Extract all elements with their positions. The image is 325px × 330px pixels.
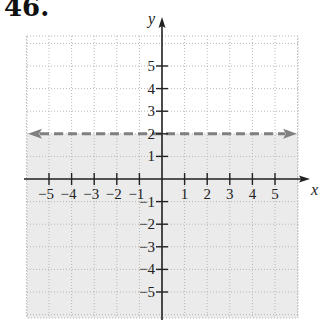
x-tick-label: −5 [38,186,54,202]
x-tick-label: 2 [203,186,211,202]
x-tick-label: −4 [61,186,77,202]
x-tick-label: 4 [249,186,257,202]
y-axis-label: y [146,10,156,28]
x-tick-label: 5 [271,186,279,202]
x-tick-label: 3 [226,186,234,202]
x-tick-label: 1 [181,186,189,202]
y-tick-label: −2 [139,216,155,232]
y-tick-label: 5 [148,58,156,74]
y-tick-label: 3 [148,103,156,119]
y-tick-label: 4 [148,81,156,97]
y-tick-label: 1 [148,148,156,164]
y-tick-label: −1 [139,194,155,210]
x-axis-label: x [310,181,318,198]
x-tick-label: −2 [106,186,122,202]
y-tick-label: 2 [148,126,156,142]
y-tick-label: −5 [139,284,155,300]
x-tick-label: −3 [83,186,99,202]
coordinate-plane: −5−4−3−2−112345−5−4−3−2−112345xy [0,0,325,330]
y-tick-label: −3 [139,239,155,255]
y-tick-label: −4 [139,261,155,277]
